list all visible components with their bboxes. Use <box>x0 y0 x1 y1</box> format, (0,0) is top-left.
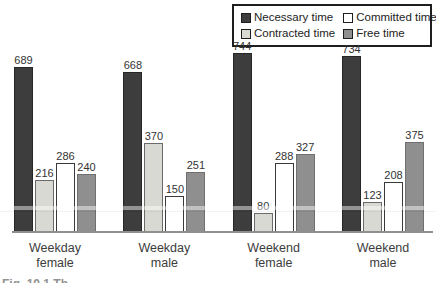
bar-value-label: 689 <box>14 54 32 66</box>
group-weekend-female: 744 80 288 327 <box>233 40 315 232</box>
bar-free-weekday-female <box>77 174 96 232</box>
barwrap: 370 <box>144 130 163 232</box>
bar-value-label: 240 <box>77 161 95 173</box>
bar-free-weekend-female <box>296 154 315 232</box>
bar-value-label: 286 <box>56 150 74 162</box>
barwrap: 240 <box>77 161 96 232</box>
barwrap: 123 <box>363 189 382 232</box>
category-label-weekday-female: Weekday female <box>14 241 96 271</box>
barwrap: 208 <box>384 169 403 232</box>
bar-value-label: 375 <box>405 129 423 141</box>
barwrap: 689 <box>14 54 33 232</box>
category-label-weekend-female: Weekend female <box>233 241 315 271</box>
bar-value-label: 150 <box>166 183 184 195</box>
barwrap: 216 <box>35 167 54 232</box>
x-axis-baseline <box>12 231 433 233</box>
bar-committed-weekend-female <box>275 163 294 232</box>
bar-necessary-weekend-male <box>342 56 361 232</box>
barwrap: 251 <box>186 159 205 232</box>
barwrap: 288 <box>275 150 294 232</box>
bar-contracted-weekend-male <box>363 202 382 232</box>
group-weekday-male: 668 370 150 251 <box>123 59 205 232</box>
category-label-weekday-male: Weekday male <box>123 241 205 271</box>
bar-contracted-weekend-female <box>254 213 273 232</box>
barwrap: 668 <box>123 59 142 232</box>
figure-10-1-bar-chart: Necessary time Committed time Contracted… <box>0 0 436 283</box>
bar-necessary-weekday-male <box>123 72 142 232</box>
bar-value-label: 370 <box>145 130 163 142</box>
bar-value-label: 251 <box>187 159 205 171</box>
bar-free-weekend-male <box>405 142 424 232</box>
bar-groups: 689 216 286 240 668 <box>14 40 424 232</box>
plot-area: 689 216 286 240 668 <box>0 0 436 233</box>
barwrap: 286 <box>56 150 75 232</box>
bar-value-label: 80 <box>257 200 269 212</box>
bar-value-label: 288 <box>275 150 293 162</box>
bar-necessary-weekend-female <box>233 53 252 232</box>
figure-caption-cutoff: Fig. 10.1 Th <box>2 277 322 283</box>
bar-necessary-weekday-female <box>14 67 33 232</box>
bar-committed-weekday-female <box>56 163 75 232</box>
barwrap: 375 <box>405 129 424 232</box>
bar-contracted-weekday-female <box>35 180 54 232</box>
bar-value-label: 327 <box>296 141 314 153</box>
bar-value-label: 744 <box>233 40 251 52</box>
bar-value-label: 208 <box>384 169 402 181</box>
bar-free-weekday-male <box>186 172 205 232</box>
category-label-weekend-male: Weekend male <box>342 241 424 271</box>
barwrap: 80 <box>254 200 273 232</box>
barwrap: 744 <box>233 40 252 232</box>
barwrap: 150 <box>165 183 184 232</box>
bar-committed-weekend-male <box>384 182 403 232</box>
category-axis-labels: Weekday female Weekday male Weekend fema… <box>14 241 424 271</box>
barwrap: 734 <box>342 43 361 232</box>
group-weekday-female: 689 216 286 240 <box>14 54 96 232</box>
barwrap: 327 <box>296 141 315 232</box>
bar-value-label: 123 <box>363 189 381 201</box>
bar-value-label: 668 <box>124 59 142 71</box>
group-weekend-male: 734 123 208 375 <box>342 43 424 232</box>
bar-contracted-weekday-male <box>144 143 163 232</box>
bar-committed-weekday-male <box>165 196 184 232</box>
bar-value-label: 216 <box>35 167 53 179</box>
bar-value-label: 734 <box>342 43 360 55</box>
